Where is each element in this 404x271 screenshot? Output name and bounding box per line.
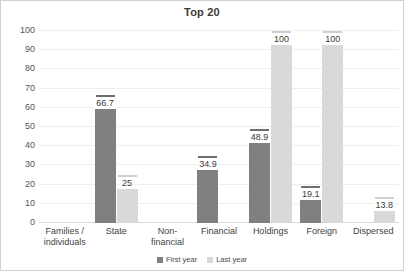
legend-item[interactable]: Last year — [207, 255, 247, 264]
x-axis-category-label: State — [90, 226, 141, 248]
bar-value-label: 100 — [324, 34, 341, 45]
bar-value-label: 13.8 — [374, 200, 394, 211]
x-axis-label-line: Dispersed — [348, 226, 399, 237]
y-axis-tick-label: 70 — [25, 83, 35, 93]
y-axis-tick-label: 30 — [25, 159, 35, 169]
bar-value-tick — [375, 197, 394, 199]
bar-slot — [168, 31, 189, 223]
legend-label: First year — [166, 255, 197, 264]
bar-group: 48.9100 — [245, 31, 296, 223]
y-axis-tick-label: 100 — [20, 25, 35, 35]
bar-slot: 19.1 — [300, 31, 321, 223]
bar-value-tick — [250, 129, 269, 131]
legend-swatch-icon — [207, 257, 213, 263]
bar-value-tick — [272, 31, 291, 33]
bar-groups: 66.72534.948.910019.110013.8 — [39, 31, 399, 223]
y-axis-tick-label: 50 — [25, 121, 35, 131]
bar-slot: 100 — [322, 31, 343, 223]
bar[interactable] — [95, 109, 116, 223]
x-axis-category-label: Families /individuals — [39, 226, 90, 248]
x-axis-label-line: Non-financial — [142, 226, 193, 248]
bar-value-tick — [118, 175, 137, 177]
bar-slot: 100 — [271, 31, 292, 223]
bar-slot: 66.7 — [95, 31, 116, 223]
x-axis-category-label: Financial — [193, 226, 244, 248]
bar[interactable] — [197, 170, 218, 223]
bar-group: 66.725 — [90, 31, 141, 223]
legend-label: Last year — [216, 255, 247, 264]
bar-value-label: 48.9 — [250, 132, 270, 143]
bar-group: 19.1100 — [296, 31, 347, 223]
bar-slot — [146, 31, 167, 223]
bar-slot — [352, 31, 373, 223]
y-axis-tick-label: 10 — [25, 198, 35, 208]
bar-value-label: 19.1 — [301, 189, 321, 200]
bar-value-label: 66.7 — [95, 98, 115, 109]
bar-value-label: 25 — [121, 178, 133, 189]
bar[interactable] — [271, 45, 292, 223]
bar-slot: 48.9 — [249, 31, 270, 223]
bar-slot: 13.8 — [374, 31, 395, 223]
y-axis-tick-label: 40 — [25, 140, 35, 150]
y-axis-tick-label: 0 — [30, 217, 35, 227]
bar-slot: 34.9 — [197, 31, 218, 223]
x-axis-label-line: Families / — [39, 226, 90, 237]
legend-item[interactable]: First year — [157, 255, 197, 264]
bar[interactable] — [117, 189, 138, 223]
x-axis-category-label: Non-financial — [142, 226, 193, 248]
legend-swatch-icon — [157, 257, 163, 263]
bar-slot — [219, 31, 240, 223]
y-axis-tick-label: 20 — [25, 179, 35, 189]
bar-group — [142, 31, 193, 223]
x-axis-label-line: Financial — [193, 226, 244, 237]
bar-group: 34.9 — [193, 31, 244, 223]
y-axis-tick-label: 80 — [25, 63, 35, 73]
bar-slot: 25 — [117, 31, 138, 223]
bar-slot — [65, 31, 86, 223]
bar-value-label: 100 — [273, 34, 290, 45]
bar-group: 13.8 — [348, 31, 399, 223]
y-axis-tick-label: 60 — [25, 102, 35, 112]
bar-value-tick — [96, 95, 115, 97]
bar-value-tick — [323, 31, 342, 33]
bar-group — [39, 31, 90, 223]
x-axis-label-line: individuals — [39, 237, 90, 248]
x-axis-label-line: State — [90, 226, 141, 237]
bar-slot — [43, 31, 64, 223]
bar[interactable] — [322, 45, 343, 223]
bar-value-tick — [198, 156, 217, 158]
x-axis-labels: Families /individualsStateNon-financialF… — [39, 226, 399, 248]
x-axis-category-label: Dispersed — [348, 226, 399, 248]
x-axis-label-line: Foreign — [296, 226, 347, 237]
bar[interactable] — [300, 200, 321, 223]
chart-legend: First yearLast year — [1, 255, 403, 264]
y-axis-tick-label: 90 — [25, 44, 35, 54]
bar-value-tick — [301, 186, 320, 188]
chart-container: Top 20 0102030405060708090100 66.72534.9… — [0, 0, 404, 271]
bar-value-label: 34.9 — [198, 159, 218, 170]
plot-area: 0102030405060708090100 66.72534.948.9100… — [39, 31, 399, 223]
chart-title: Top 20 — [1, 6, 403, 18]
bar[interactable] — [249, 143, 270, 223]
x-axis-category-label: Foreign — [296, 226, 347, 248]
bar[interactable] — [374, 211, 395, 224]
x-axis-category-label: Holdings — [245, 226, 296, 248]
x-axis-label-line: Holdings — [245, 226, 296, 237]
